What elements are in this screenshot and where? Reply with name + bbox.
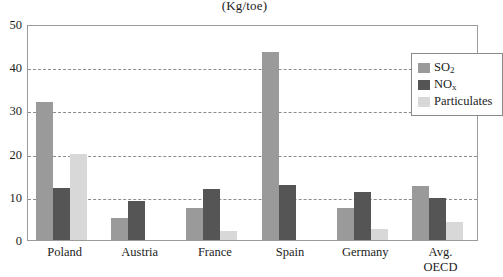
- plot-area: SO2NOxParticulates: [27, 25, 478, 241]
- legend-swatch-icon: [418, 80, 430, 90]
- y-tick-label: 30: [0, 105, 22, 117]
- bar-particulates-poland: [70, 154, 87, 240]
- bar-so2-germany: [337, 208, 354, 240]
- bar-so2-france: [186, 208, 203, 240]
- legend-label: SO2: [434, 61, 454, 74]
- x-tick-label: Spain: [253, 245, 328, 260]
- bar-nox-poland: [53, 188, 70, 240]
- bar-so2-poland: [36, 102, 53, 240]
- legend-item: SO2: [418, 59, 496, 76]
- y-tick-label: 20: [0, 149, 22, 161]
- bars-layer: [28, 26, 477, 240]
- legend-swatch-icon: [418, 63, 430, 73]
- bar-nox-austria: [128, 201, 145, 240]
- y-tick-label: 10: [0, 192, 22, 204]
- bar-particulates-france: [220, 231, 237, 240]
- y-tick-label: 50: [0, 19, 22, 31]
- legend-swatch-icon: [418, 97, 430, 107]
- bar-nox-france: [203, 189, 220, 240]
- chart-legend: SO2NOxParticulates: [411, 53, 503, 116]
- bar-nox-spain: [279, 185, 296, 240]
- bar-particulates-germany: [371, 229, 388, 240]
- legend-item: Particulates: [418, 93, 496, 110]
- bar-so2-avgoecd: [412, 186, 429, 240]
- bar-so2-spain: [262, 52, 279, 240]
- x-axis: PolandAustriaFranceSpainGermanyAvg. OECD: [27, 245, 478, 277]
- x-tick-label: Avg. OECD: [403, 245, 478, 275]
- legend-label: Particulates: [434, 95, 492, 108]
- x-tick-label: Poland: [27, 245, 102, 260]
- y-tick-label: 40: [0, 62, 22, 74]
- bar-so2-austria: [111, 218, 128, 240]
- legend-label: NOx: [434, 78, 457, 91]
- x-tick-label: Germany: [328, 245, 403, 260]
- bar-nox-germany: [354, 192, 371, 240]
- x-tick-label: France: [177, 245, 252, 260]
- x-tick-label: Austria: [102, 245, 177, 260]
- bar-particulates-avgoecd: [446, 222, 463, 240]
- bar-nox-avgoecd: [429, 198, 446, 240]
- legend-item: NOx: [418, 76, 496, 93]
- y-tick-label: 0: [0, 235, 22, 247]
